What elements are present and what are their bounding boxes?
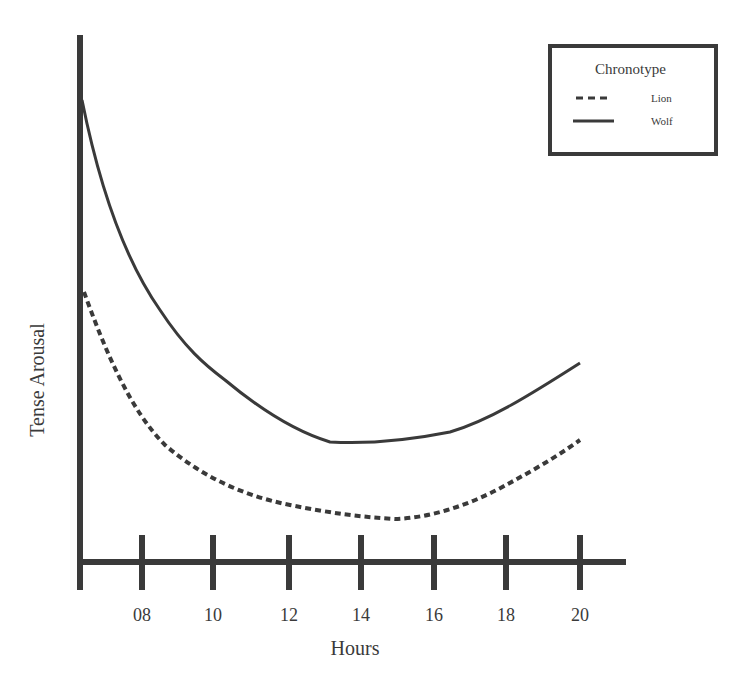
x-tick-label: 08: [133, 605, 151, 625]
x-tick-label: 18: [497, 605, 515, 625]
x-tick-labels: 08 10 12 14 16 18 20: [133, 605, 589, 625]
x-tick-label: 12: [280, 605, 298, 625]
legend-label-lion: Lion: [651, 92, 672, 104]
x-tick-label: 16: [425, 605, 443, 625]
x-tick-label: 10: [204, 605, 222, 625]
series-wolf-line: [82, 100, 580, 443]
legend: Chronotype Lion Wolf: [550, 46, 716, 154]
x-axis-title: Hours: [331, 637, 380, 659]
legend-label-wolf: Wolf: [651, 115, 673, 127]
y-axis-title: Tense Arousal: [26, 323, 48, 437]
x-tick-label: 14: [352, 605, 370, 625]
x-tick-label: 20: [571, 605, 589, 625]
series-lion-line: [84, 292, 580, 519]
chart: 08 10 12 14 16 18 20 Hours Tense Arousal…: [0, 0, 741, 681]
legend-title: Chronotype: [595, 61, 666, 77]
